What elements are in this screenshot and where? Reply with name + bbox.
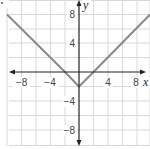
x-axis-left-arrow-icon [9, 70, 15, 75]
y-axis [77, 0, 82, 146]
x-tick-label: 8 [133, 77, 139, 88]
y-tick-label: 4 [69, 38, 75, 49]
marker-dot-icon [1, 2, 3, 4]
graph: −8 −4 4 8 8 4 −4 −8 y x [0, 0, 150, 149]
y-axis-label: y [82, 0, 89, 12]
x-tick-label: −4 [44, 77, 56, 88]
x-axis [9, 70, 146, 75]
y-tick-label: 8 [69, 9, 75, 20]
y-tick-label: −4 [64, 96, 76, 107]
x-axis-right-arrow-icon [140, 70, 146, 75]
x-tick-label: 4 [105, 77, 111, 88]
x-axis-label: x [142, 75, 149, 89]
y-tick-label: −8 [64, 125, 76, 136]
x-tick-label: −8 [16, 77, 28, 88]
